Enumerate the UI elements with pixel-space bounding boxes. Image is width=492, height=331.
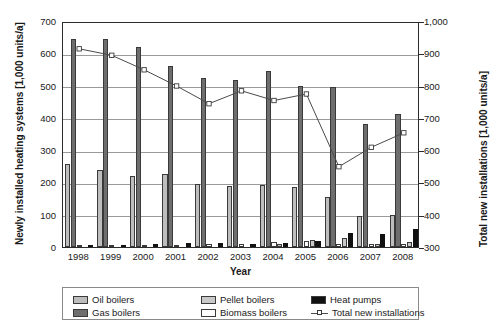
legend-item[interactable]: Total new installations	[311, 308, 424, 318]
line-marker: 1999: 900	[110, 53, 114, 57]
y-axis-right-tick: 600	[424, 146, 468, 156]
legend-item[interactable]: Biomass boilers	[201, 308, 287, 318]
y-axis-right-tick: 400	[424, 211, 468, 221]
y-axis-right-tickmark	[419, 119, 424, 120]
y-axis-left-tick: 300	[16, 146, 56, 156]
legend-label: Gas boilers	[92, 307, 140, 318]
y-axis-left-tick: 400	[16, 114, 56, 124]
line-marker: 2006: 555	[337, 165, 341, 169]
x-axis-title: Year	[62, 266, 419, 277]
y-axis-right-tickmark	[419, 216, 424, 217]
legend-item[interactable]: Pellet boilers	[201, 295, 274, 305]
swatch-heatpump-icon	[311, 296, 326, 304]
chart-figure: Newly installed heating systems [1,000 u…	[0, 0, 492, 331]
y-axis-left-tick: 500	[16, 82, 56, 92]
swatch-biomass-icon	[201, 309, 216, 317]
line-marker: 2001: 805	[174, 84, 178, 88]
y-axis-left-tick: 200	[16, 178, 56, 188]
swatch-line-icon	[311, 309, 328, 317]
plot-area: 1998: 9201999: 9002000: 8552001: 8052002…	[62, 22, 419, 248]
y-axis-right-tickmark	[419, 22, 424, 23]
legend-label: Oil boilers	[92, 294, 134, 305]
swatch-pellet-icon	[201, 296, 216, 304]
y-axis-left-tick: 100	[16, 211, 56, 221]
y-axis-right-tick: 900	[424, 49, 468, 59]
line-series-total-new-installations: 1998: 9201999: 9002000: 8552001: 8052002…	[63, 23, 420, 249]
y-axis-right-title: Total new installations [1,000 units/a]	[478, 71, 490, 247]
line-path	[79, 49, 404, 167]
line-marker: 1998: 920	[77, 47, 81, 51]
legend-item[interactable]: Heat pumps	[311, 295, 381, 305]
legend-label: Biomass boilers	[220, 307, 287, 318]
line-marker: 2003: 790	[239, 89, 243, 93]
y-axis-right-tickmark	[419, 151, 424, 152]
y-axis-right-tick: 700	[424, 114, 468, 124]
line-marker: 2002: 750	[207, 102, 211, 106]
y-axis-right-tick: 300	[424, 243, 468, 253]
y-axis-right-tickmark	[419, 54, 424, 55]
legend-label: Total new installations	[332, 307, 424, 318]
x-axis-tick: 2008	[383, 252, 423, 262]
y-axis-right-tick: 800	[424, 82, 468, 92]
legend-label: Pellet boilers	[220, 294, 274, 305]
swatch-oil-icon	[73, 296, 88, 304]
legend-item[interactable]: Gas boilers	[73, 308, 140, 318]
y-axis-left-tick: 700	[16, 17, 56, 27]
line-marker: 2004: 760	[272, 98, 276, 102]
line-marker: 2007: 615	[369, 145, 373, 149]
chart-legend: Oil boilersGas boilersPellet boilersBiom…	[62, 287, 419, 320]
y-axis-right-tick: 1,000	[424, 17, 468, 27]
y-axis-right-tickmark	[419, 183, 424, 184]
line-marker: 2000: 855	[142, 68, 146, 72]
y-axis-right-tickmark	[419, 248, 424, 249]
y-axis-left-tick: 600	[16, 49, 56, 59]
line-marker: 2008: 660	[402, 131, 406, 135]
y-axis-right-tickmark	[419, 87, 424, 88]
swatch-gas-icon	[73, 309, 88, 317]
legend-label: Heat pumps	[330, 294, 381, 305]
legend-item[interactable]: Oil boilers	[73, 295, 134, 305]
y-axis-left-tick: 0	[16, 243, 56, 253]
y-axis-right-tick: 500	[424, 178, 468, 188]
line-marker: 2005: 780	[304, 92, 308, 96]
